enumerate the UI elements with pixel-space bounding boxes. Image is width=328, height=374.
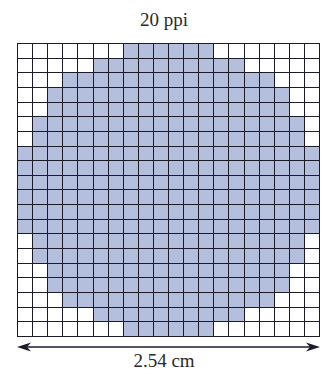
pixel-cell-filled [108, 292, 123, 307]
pixel-cell-filled [62, 219, 77, 234]
pixel-cell-filled [138, 307, 153, 322]
pixel-cell-filled [17, 160, 32, 175]
pixel-cell-filled [198, 102, 213, 117]
pixel-cell-empty [32, 277, 47, 292]
pixel-cell-filled [183, 233, 198, 248]
pixel-cell-filled [93, 204, 108, 219]
pixel-cell-filled [123, 321, 138, 336]
pixel-cell-filled [183, 72, 198, 87]
title-ppi: 20 ppi [0, 8, 328, 32]
pixel-cell-filled [77, 102, 92, 117]
pixel-cell-filled [108, 189, 123, 204]
pixel-cell-filled [47, 277, 62, 292]
pixel-cell-empty [304, 43, 319, 58]
pixel-cell-filled [123, 292, 138, 307]
pixel-cell-empty [259, 43, 274, 58]
pixel-cell-filled [138, 160, 153, 175]
pixel-cell-filled [244, 175, 259, 190]
pixel-cell-filled [47, 189, 62, 204]
pixel-cell-filled [32, 204, 47, 219]
pixel-cell-empty [17, 277, 32, 292]
pixel-cell-filled [198, 87, 213, 102]
pixel-cell-empty [32, 263, 47, 278]
pixel-cell-filled [289, 175, 304, 190]
pixel-cell-filled [259, 189, 274, 204]
pixel-cell-filled [289, 248, 304, 263]
pixel-cell-empty [62, 307, 77, 322]
pixel-cell-filled [123, 219, 138, 234]
pixel-cell-filled [62, 87, 77, 102]
pixel-cell-empty [213, 43, 228, 58]
pixel-cell-empty [304, 58, 319, 73]
pixel-cell-filled [213, 277, 228, 292]
pixel-cell-filled [274, 87, 289, 102]
pixel-cell-filled [168, 43, 183, 58]
pixel-cell-filled [213, 146, 228, 161]
pixel-cell-empty [289, 277, 304, 292]
pixel-cell-filled [62, 72, 77, 87]
pixel-cell-empty [17, 116, 32, 131]
pixel-cell-filled [213, 72, 228, 87]
pixel-cell-filled [198, 160, 213, 175]
pixel-cell-filled [259, 175, 274, 190]
pixel-cell-empty [289, 43, 304, 58]
pixel-cell-filled [47, 160, 62, 175]
pixel-cell-filled [138, 87, 153, 102]
pixel-cell-filled [168, 233, 183, 248]
pixel-cell-filled [168, 87, 183, 102]
pixel-cell-filled [304, 160, 319, 175]
pixel-cell-filled [17, 204, 32, 219]
pixel-cell-filled [32, 160, 47, 175]
pixel-cell-empty [17, 131, 32, 146]
pixel-cell-filled [168, 307, 183, 322]
pixel-cell-filled [274, 146, 289, 161]
pixel-cell-filled [47, 116, 62, 131]
pixel-cell-filled [77, 233, 92, 248]
pixel-cell-filled [228, 248, 243, 263]
pixel-cell-filled [108, 175, 123, 190]
pixel-cell-empty [304, 248, 319, 263]
pixel-cell-filled [108, 160, 123, 175]
pixel-cell-empty [17, 248, 32, 263]
pixel-cell-filled [62, 160, 77, 175]
pixel-cell-filled [138, 248, 153, 263]
pixel-cell-filled [183, 146, 198, 161]
pixel-cell-filled [168, 116, 183, 131]
pixel-cell-filled [153, 58, 168, 73]
pixel-cell-filled [138, 131, 153, 146]
pixel-cell-filled [259, 219, 274, 234]
pixel-cell-filled [228, 204, 243, 219]
pixel-cell-filled [62, 116, 77, 131]
pixel-cell-empty [289, 102, 304, 117]
pixel-cell-empty [32, 102, 47, 117]
pixel-cell-filled [213, 160, 228, 175]
pixel-cell-filled [168, 248, 183, 263]
pixel-cell-filled [77, 263, 92, 278]
pixel-cell-filled [17, 146, 32, 161]
pixel-cell-filled [153, 219, 168, 234]
pixel-cell-empty [47, 307, 62, 322]
pixel-cell-empty [289, 87, 304, 102]
pixel-cell-empty [17, 321, 32, 336]
pixel-cell-empty [47, 43, 62, 58]
pixel-cell-filled [93, 175, 108, 190]
pixel-cell-filled [274, 219, 289, 234]
pixel-cell-filled [123, 102, 138, 117]
pixel-cell-filled [168, 131, 183, 146]
pixel-cell-filled [32, 233, 47, 248]
pixel-cell-filled [168, 189, 183, 204]
pixel-cell-empty [304, 277, 319, 292]
pixel-cell-filled [62, 233, 77, 248]
pixel-cell-filled [138, 116, 153, 131]
pixel-cell-filled [244, 277, 259, 292]
pixel-cell-filled [183, 175, 198, 190]
pixel-cell-filled [123, 233, 138, 248]
pixel-cell-filled [213, 87, 228, 102]
pixel-cell-filled [123, 277, 138, 292]
pixel-cell-filled [228, 175, 243, 190]
pixel-cell-filled [228, 189, 243, 204]
pixel-cell-filled [108, 131, 123, 146]
pixel-cell-empty [244, 321, 259, 336]
pixel-cell-filled [274, 263, 289, 278]
pixel-cell-filled [244, 189, 259, 204]
